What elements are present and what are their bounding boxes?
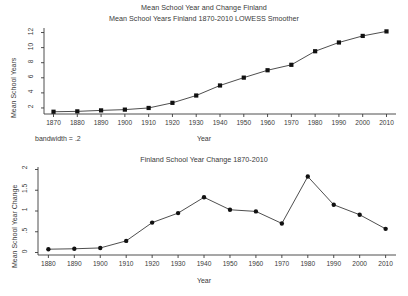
data-point-marker [150,220,154,224]
y-tick-label: 1.5 [21,181,28,197]
y-tick-label: 10 [27,38,34,54]
y-tick-label: 12 [27,23,34,39]
figure-suptitle: Mean School Year and Change Finland [0,3,408,12]
data-point-marker [124,239,128,243]
data-point-marker [99,108,103,112]
y-tick-label: 2 [27,98,34,114]
data-point-marker [72,247,76,251]
data-point-marker [194,93,198,97]
data-point-marker [218,83,222,87]
x-tick-label: 1870 [41,119,67,126]
data-series-line [48,177,385,250]
x-tick-label: 2000 [347,260,373,267]
data-point-marker [357,213,361,217]
y-tick-label: 6 [27,68,34,84]
data-point-marker [383,227,387,231]
x-tick-label: 1930 [165,260,191,267]
x-tick-label: 2010 [373,119,399,126]
x-tick-label: 1960 [255,119,281,126]
y-tick-label: 1 [21,202,28,218]
y-tick-label: 2 [21,160,28,176]
x-tick-label: 1980 [302,119,328,126]
x-tick-label: 1930 [183,119,209,126]
data-point-marker [289,63,293,67]
data-point-marker [384,29,388,33]
x-tick-label: 1960 [243,260,269,267]
x-tick-label: 2010 [373,260,399,267]
x-tick-label: 1890 [88,119,114,126]
plot-area-bottom [0,155,408,296]
x-tick-label: 1880 [35,260,61,267]
data-point-marker [337,40,341,44]
x-tick-label: 1890 [61,260,87,267]
plot-area-top [0,14,408,150]
bandwidth-annotation: bandwidth = .2 [35,135,81,142]
x-tick-label: 1900 [87,260,113,267]
figure-canvas: Mean School Year and Change Finland Mean… [0,0,408,296]
data-point-marker [361,34,365,38]
x-axis-label-bottom: Year [0,277,408,284]
x-tick-label: 1970 [278,119,304,126]
data-point-marker [254,209,258,213]
x-tick-label: 1910 [136,119,162,126]
data-point-marker [202,195,206,199]
data-point-marker [306,174,310,178]
data-point-marker [242,76,246,80]
y-axis-label-bottom: Mean School Year Change [11,185,18,268]
x-tick-label: 1920 [139,260,165,267]
data-point-marker [313,49,317,53]
x-tick-label: 1910 [113,260,139,267]
x-tick-label: 1970 [269,260,295,267]
x-tick-label: 1950 [231,119,257,126]
x-tick-label: 1920 [159,119,185,126]
x-tick-label: 1880 [64,119,90,126]
data-series-line [54,31,387,111]
x-tick-label: 1980 [295,260,321,267]
x-tick-label: 2000 [350,119,376,126]
x-tick-label: 1990 [321,260,347,267]
data-point-marker [280,221,284,225]
x-tick-label: 1940 [207,119,233,126]
data-point-marker [332,203,336,207]
y-tick-label: 8 [27,53,34,69]
data-point-marker [147,106,151,110]
data-point-marker [123,108,127,112]
data-point-marker [51,110,55,114]
x-tick-label: 1950 [217,260,243,267]
y-tick-label: 4 [27,83,34,99]
y-tick-label: .5 [21,222,28,238]
data-point-marker [265,68,269,72]
x-tick-label: 1990 [326,119,352,126]
data-point-marker [75,109,79,113]
x-tick-label: 1900 [112,119,138,126]
chart-panel-school-year-change: Finland School Year Change 1870-2010 Yea… [0,155,408,296]
chart-panel-mean-school-years: Mean School Years Finland 1870-2010 LOWE… [0,14,408,150]
data-point-marker [176,211,180,215]
data-point-marker [98,246,102,250]
y-tick-label: 0 [21,243,28,259]
x-tick-label: 1940 [191,260,217,267]
data-point-marker [228,208,232,212]
y-axis-label-top: Mean School Years [10,58,17,118]
data-point-marker [46,247,50,251]
data-point-marker [170,101,174,105]
